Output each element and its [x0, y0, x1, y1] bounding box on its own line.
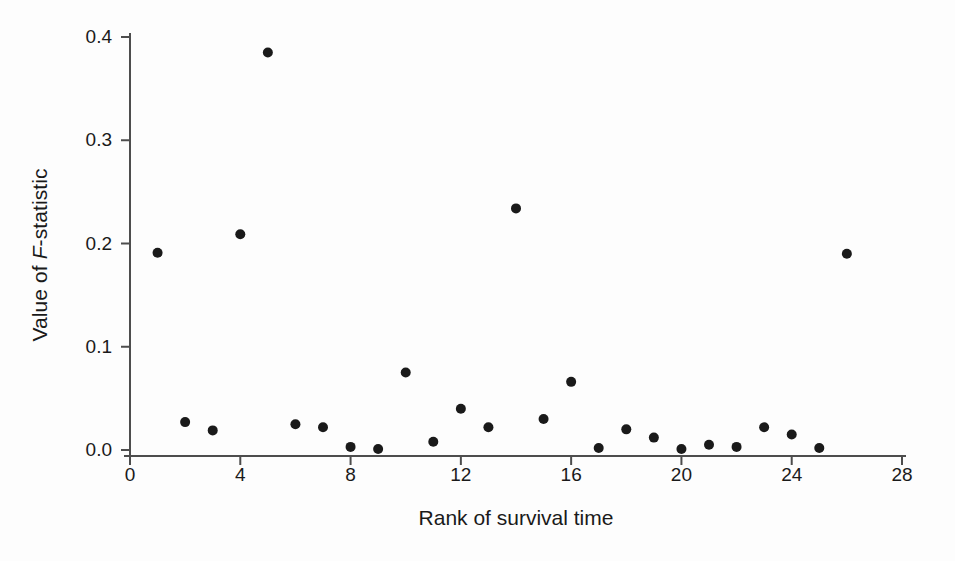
figure-canvas: Value of F-statistic Rank of survival ti…	[0, 0, 955, 561]
data-point	[814, 443, 824, 453]
data-point	[649, 433, 659, 443]
data-point	[401, 368, 411, 378]
data-point-group	[153, 47, 852, 453]
data-point	[263, 47, 273, 57]
data-point	[208, 425, 218, 435]
data-point	[621, 424, 631, 434]
data-point	[704, 440, 714, 450]
data-point	[346, 442, 356, 452]
data-point	[153, 248, 163, 258]
data-point	[676, 444, 686, 454]
data-point	[180, 417, 190, 427]
data-point	[483, 422, 493, 432]
data-point	[787, 430, 797, 440]
data-point	[759, 422, 769, 432]
data-point	[842, 249, 852, 259]
data-point	[428, 437, 438, 447]
data-point	[373, 444, 383, 454]
data-point	[290, 419, 300, 429]
data-point	[539, 414, 549, 424]
data-point	[318, 422, 328, 432]
data-point	[566, 377, 576, 387]
data-point	[511, 203, 521, 213]
data-point	[456, 404, 466, 414]
scatter-plot	[0, 0, 955, 561]
axis-tick-marks	[121, 37, 902, 465]
data-point	[594, 443, 604, 453]
data-point	[235, 229, 245, 239]
axis-lines	[124, 33, 906, 456]
data-point	[732, 442, 742, 452]
